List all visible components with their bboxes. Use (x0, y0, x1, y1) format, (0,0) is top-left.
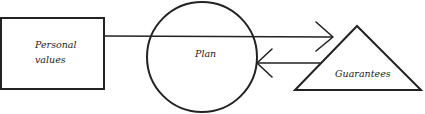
node-guarantees: Guarantees (295, 26, 421, 90)
guarantees-triangle (295, 26, 421, 90)
flow-diagram: Personal values Plan Guarantees (0, 0, 425, 114)
node-plan: Plan (147, 2, 257, 112)
guarantees-label: Guarantees (335, 68, 391, 79)
personal-values-label-line1: Personal (34, 39, 77, 50)
personal-values-label-line2: values (35, 54, 66, 65)
node-personal-values: Personal values (1, 18, 104, 89)
upper-arrow-line (104, 36, 332, 37)
plan-label: Plan (194, 48, 216, 59)
